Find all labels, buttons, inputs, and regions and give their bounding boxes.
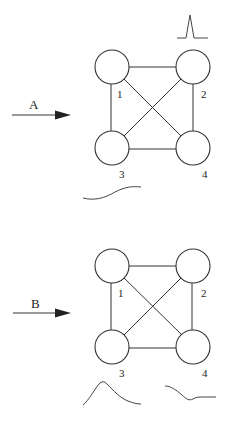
node-2 [176, 249, 210, 283]
node-2 [176, 50, 210, 84]
node-1 [95, 50, 129, 84]
network-diagram: A 1 2 3 4 B [0, 0, 225, 428]
arrow-head-icon [55, 111, 71, 120]
panel-a: A 1 2 3 4 [12, 15, 210, 199]
node-label-2: 2 [201, 287, 207, 299]
panel-b: B 1 2 3 4 [13, 249, 216, 405]
arrow-head-icon [55, 309, 71, 318]
arrow-label-b: B [31, 296, 40, 311]
node-1 [95, 249, 129, 283]
input-arrow-a: A [12, 97, 71, 120]
node-label-1: 1 [118, 287, 124, 299]
node-label-3: 3 [119, 367, 125, 379]
spike-waveform-icon [177, 15, 208, 38]
node-label-1: 1 [117, 88, 123, 100]
input-arrow-b: B [13, 296, 71, 318]
node-4 [176, 330, 210, 364]
arrow-label-a: A [29, 97, 39, 112]
broad-peak-waveform-icon [83, 382, 141, 405]
node-label-4: 4 [202, 367, 208, 379]
node-4 [176, 131, 210, 165]
node-label-3: 3 [119, 168, 125, 180]
node-3 [95, 330, 129, 364]
node-3 [95, 131, 129, 165]
dip-curve-waveform-icon [165, 386, 216, 400]
node-label-2: 2 [201, 88, 207, 100]
rising-curve-waveform-icon [83, 187, 141, 200]
node-label-4: 4 [202, 168, 208, 180]
